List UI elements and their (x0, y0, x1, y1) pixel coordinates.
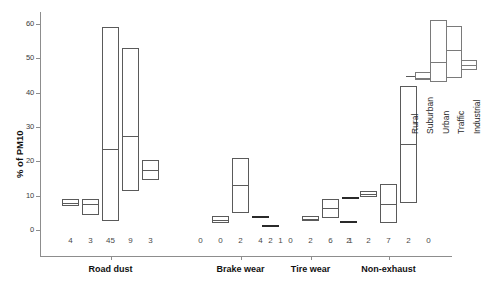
y-axis-tick-label: 40 (10, 88, 34, 97)
sample-count-label: 0 (282, 236, 299, 245)
sample-count-label: 45 (102, 236, 119, 245)
sample-count-label: 0 (212, 236, 229, 245)
y-axis-tick-label: 50 (10, 53, 34, 62)
y-axis-title: % of PM10 (14, 130, 25, 178)
x-axis-group-label: Road dust (61, 264, 161, 274)
x-axis-tick (111, 256, 112, 260)
chart-legend: RuralSuburbanUrbanTrafficIndustrial (404, 4, 490, 136)
legend-label-urban: Urban (441, 111, 451, 134)
sample-count-label: 9 (122, 236, 139, 245)
box-plot-median (400, 144, 417, 145)
box-plot-box (102, 27, 119, 221)
legend-box-traffic (446, 26, 462, 78)
sample-count-label: 2 (232, 236, 249, 245)
box-plot-flat (340, 221, 357, 223)
x-axis-tick (241, 256, 242, 260)
sample-count-label: 4 (62, 236, 79, 245)
x-axis-tick (389, 256, 390, 260)
y-axis-tick-label: 20 (10, 156, 34, 165)
y-axis-tick (36, 127, 40, 128)
y-axis-tick-label: 60 (10, 19, 34, 28)
legend-median-urban (430, 62, 447, 63)
legend-median-industrial (461, 65, 477, 66)
box-plot-flat (262, 225, 279, 227)
y-axis-line (40, 12, 41, 256)
sample-count-label: 2 (340, 236, 357, 245)
box-plot-box (82, 199, 99, 215)
box-plot-median (122, 136, 139, 137)
y-axis-tick (36, 230, 40, 231)
sample-count-label: 7 (380, 236, 397, 245)
legend-median-suburban (415, 78, 431, 79)
legend-median-traffic (446, 50, 462, 51)
x-axis-tick (311, 256, 312, 260)
sample-count-label: 0 (420, 236, 437, 245)
y-axis-tick (36, 196, 40, 197)
sample-count-label: 3 (82, 236, 99, 245)
y-axis-tick (36, 161, 40, 162)
box-plot-median (360, 194, 377, 195)
box-plot-median (102, 149, 119, 150)
legend-label-traffic: Traffic (456, 111, 466, 134)
box-plot-median (212, 220, 229, 221)
box-plot-median (302, 219, 319, 220)
sample-count-label: 6 (322, 236, 339, 245)
box-plot-flat (342, 197, 359, 199)
x-axis-line (40, 256, 452, 257)
box-plot-median (322, 208, 339, 209)
sample-count-label: 3 (142, 236, 159, 245)
sample-count-label: 2 (302, 236, 319, 245)
legend-label-industrial: Industrial (472, 100, 482, 135)
x-axis-group-label: Non-exhaust (339, 264, 439, 274)
sample-count-label: 2 (262, 236, 279, 245)
y-axis-tick-label: 10 (10, 191, 34, 200)
chart-canvas: % of PM10 0102030405060434593Road dust00… (0, 0, 491, 288)
box-plot-box (122, 48, 139, 191)
y-axis-tick (36, 93, 40, 94)
box-plot-median (142, 170, 159, 171)
box-plot-median (380, 204, 397, 205)
legend-label-suburban: Suburban (425, 97, 435, 134)
y-axis-tick-label: 0 (10, 225, 34, 234)
box-plot-median (232, 185, 249, 186)
sample-count-label: 2 (360, 236, 377, 245)
sample-count-label: 2 (400, 236, 417, 245)
box-plot-median (82, 204, 99, 205)
sample-count-label: 0 (192, 236, 209, 245)
y-axis-tick (36, 24, 40, 25)
legend-box-urban (430, 20, 447, 82)
y-axis-tick-label: 30 (10, 122, 34, 131)
legend-label-rural: Rural (410, 114, 420, 134)
box-plot-flat (252, 216, 269, 218)
box-plot-median (62, 203, 79, 204)
y-axis-tick (36, 58, 40, 59)
